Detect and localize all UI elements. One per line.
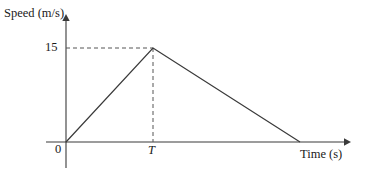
x-axis-arrowhead-icon	[344, 138, 351, 146]
y-axis	[62, 14, 69, 168]
y-tick-label-15: 15	[45, 41, 58, 54]
x-axis	[46, 138, 351, 146]
origin-label: 0	[55, 143, 61, 156]
x-axis-title: Time (s)	[300, 148, 342, 161]
speed-time-curve	[66, 48, 300, 142]
y-axis-title: Speed (m/s)	[4, 7, 64, 20]
x-tick-label-T: T	[148, 144, 155, 157]
speed-time-graph-figure: Speed (m/s) Time (s) 15 0 T	[0, 0, 375, 171]
